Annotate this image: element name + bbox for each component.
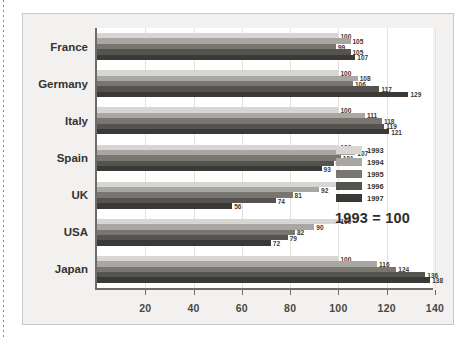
x-axis-tick	[145, 290, 146, 295]
bar[interactable]: 72	[97, 240, 271, 245]
gridline	[435, 28, 436, 288]
bar-value-label: 56	[234, 202, 241, 209]
x-axis-tick-label: 140	[426, 302, 444, 314]
bar-row: 121	[97, 129, 433, 134]
x-axis-tick	[194, 290, 195, 295]
legend-swatch	[336, 170, 362, 178]
x-axis-tick	[242, 290, 243, 295]
bar-group: Italy100111118119121	[97, 107, 433, 134]
bar-value-label: 107	[357, 54, 368, 61]
legend-swatch	[336, 146, 362, 154]
legend-item[interactable]: 1993	[336, 145, 410, 156]
page-margin-rule	[3, 0, 4, 338]
base-year-note: 1993 = 100	[335, 210, 410, 226]
chart-figure: 20406080100120140 France10010599105107Ge…	[22, 13, 454, 325]
x-axis-tick	[338, 290, 339, 295]
bar-row: 129	[97, 92, 433, 97]
bar-value-label: 72	[273, 240, 280, 247]
legend-swatch	[336, 182, 362, 190]
bar-value-label: 138	[432, 277, 443, 284]
bar-row: 107	[97, 55, 433, 60]
chart-legend: 19931994199519961997	[336, 145, 410, 205]
x-axis-tick-label: 60	[236, 302, 248, 314]
x-axis-tick-label: 120	[377, 302, 395, 314]
bar[interactable]: 138	[97, 277, 430, 282]
category-label: Italy	[65, 115, 88, 127]
category-label: Germany	[38, 78, 88, 90]
legend-label: 1997	[367, 194, 384, 203]
legend-label: 1996	[367, 182, 384, 191]
chart-page: 20406080100120140 France10010599105107Ge…	[0, 0, 467, 338]
bar-value-label: 93	[324, 165, 331, 172]
bar[interactable]: 129	[97, 92, 408, 97]
bar[interactable]: 93	[97, 166, 322, 171]
category-label: USA	[64, 226, 88, 238]
legend-item[interactable]: 1995	[336, 169, 410, 180]
legend-swatch	[336, 194, 362, 202]
category-label: Spain	[57, 152, 88, 164]
legend-label: 1994	[367, 158, 384, 167]
bar-row: 138	[97, 277, 433, 282]
legend-swatch	[336, 158, 362, 166]
bar[interactable]: 107	[97, 55, 355, 60]
legend-item[interactable]: 1997	[336, 193, 410, 204]
bar-group: France10010599105107	[97, 33, 433, 60]
bar-group: Japan100116124136138	[97, 256, 433, 283]
bar-row: 72	[97, 240, 433, 245]
legend-item[interactable]: 1994	[336, 157, 410, 168]
x-axis-tick-label: 20	[139, 302, 151, 314]
x-axis-tick	[435, 290, 436, 295]
bar-value-label: 121	[391, 128, 402, 135]
legend-label: 1995	[367, 170, 384, 179]
x-axis-tick	[290, 290, 291, 295]
x-axis-tick-label: 40	[187, 302, 199, 314]
x-axis-tick-label: 80	[284, 302, 296, 314]
x-axis-tick	[387, 290, 388, 295]
category-label: Japan	[55, 263, 88, 275]
bar[interactable]: 56	[97, 203, 232, 208]
legend-label: 1993	[367, 146, 384, 155]
x-axis-tick-label: 100	[329, 302, 347, 314]
category-label: France	[50, 41, 88, 53]
bar-value-label: 129	[410, 91, 421, 98]
category-label: UK	[71, 189, 88, 201]
bar[interactable]: 121	[97, 129, 389, 134]
bar-group: Germany100108106117129	[97, 70, 433, 97]
legend-item[interactable]: 1996	[336, 181, 410, 192]
